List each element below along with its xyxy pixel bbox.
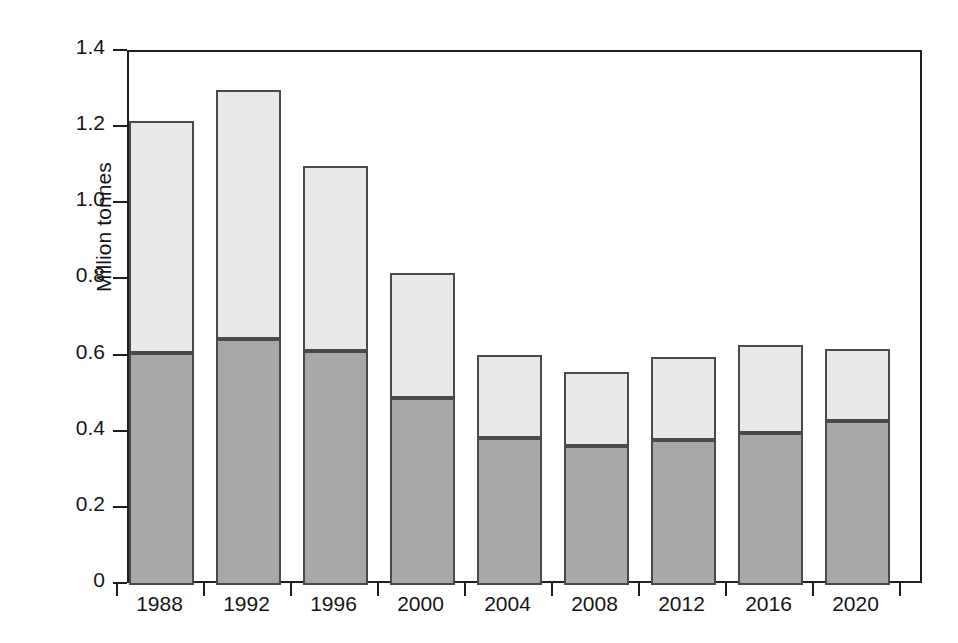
- y-tick-label: 1.0: [0, 187, 105, 211]
- bar-segment-upper: [477, 355, 542, 439]
- bar-2020: [825, 349, 890, 585]
- y-tick-mark: [113, 430, 127, 432]
- bar-segment-upper: [564, 372, 629, 446]
- bar-segment-lower: [825, 421, 890, 585]
- y-tick-mark: [113, 125, 127, 127]
- bar-segment-lower: [651, 440, 716, 585]
- bar-segment-upper: [825, 349, 890, 421]
- x-tick-label: 2020: [811, 592, 901, 616]
- x-tick-label: 1996: [289, 592, 379, 616]
- plot-area: [127, 50, 922, 583]
- chart-figure: Million tonnes 00.20.40.60.81.01.21.4 19…: [0, 0, 958, 643]
- x-tick-label: 2000: [376, 592, 466, 616]
- bar-segment-upper: [303, 166, 368, 351]
- bar-segment-lower: [390, 398, 455, 585]
- y-axis-label: Million tonnes: [92, 117, 116, 337]
- bar-segment-lower: [303, 351, 368, 585]
- y-tick-label: 0.2: [0, 492, 105, 516]
- bar-segment-upper: [651, 357, 716, 441]
- bar-segment-lower: [216, 339, 281, 585]
- bar-2004: [477, 355, 542, 585]
- bar-segment-lower: [129, 353, 194, 585]
- bar-segment-upper: [390, 273, 455, 399]
- y-tick-mark: [113, 201, 127, 203]
- bar-1992: [216, 90, 281, 585]
- x-tick-label: 1988: [115, 592, 205, 616]
- bar-segment-upper: [738, 345, 803, 433]
- bar-segment-upper: [216, 90, 281, 339]
- bar-segment-lower: [477, 438, 542, 585]
- y-tick-mark: [113, 49, 127, 51]
- y-tick-label: 0.6: [0, 340, 105, 364]
- y-tick-label: 1.2: [0, 111, 105, 135]
- x-tick-label: 2012: [637, 592, 727, 616]
- x-tick-label: 1992: [202, 592, 292, 616]
- bar-2000: [390, 273, 455, 585]
- bar-segment-lower: [564, 446, 629, 585]
- x-tick-label: 2008: [550, 592, 640, 616]
- bar-2012: [651, 357, 716, 585]
- y-tick-label: 0.4: [0, 416, 105, 440]
- y-tick-label: 0: [0, 568, 105, 592]
- x-tick-label: 2004: [463, 592, 553, 616]
- bar-segment-lower: [738, 433, 803, 585]
- bar-1996: [303, 166, 368, 585]
- y-tick-mark: [113, 506, 127, 508]
- y-tick-label: 0.8: [0, 263, 105, 287]
- y-tick-mark: [113, 277, 127, 279]
- y-tick-mark: [113, 354, 127, 356]
- x-tick-label: 2016: [724, 592, 814, 616]
- bar-2016: [738, 345, 803, 585]
- bar-2008: [564, 372, 629, 585]
- y-tick-label: 1.4: [0, 35, 105, 59]
- bar-1988: [129, 121, 194, 585]
- bar-segment-upper: [129, 121, 194, 353]
